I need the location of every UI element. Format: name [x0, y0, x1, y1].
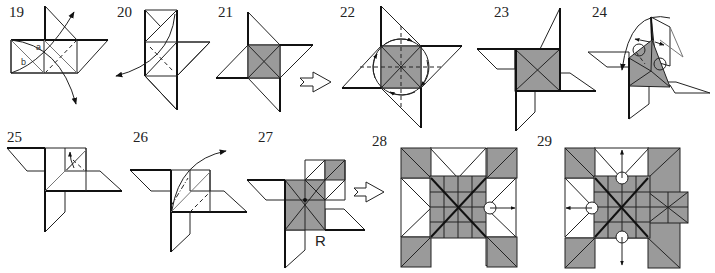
- diagram-canvas: a b: [0, 0, 715, 273]
- label-a: a: [36, 42, 41, 52]
- step-25-figure: [7, 148, 122, 232]
- step-22-figure: [342, 6, 462, 128]
- transition-arrow-21-22: [300, 72, 331, 92]
- step-26-figure: [130, 151, 247, 252]
- origami-diagram: 19 20 21 22 23 24 25 26 27 28 29: [0, 0, 715, 273]
- label-R: R: [315, 232, 326, 249]
- step-29-figure: [565, 148, 688, 268]
- step-19-figure: a b: [11, 6, 108, 104]
- step-24-figure: [588, 17, 710, 119]
- step-21-figure: [216, 12, 313, 112]
- step-20-figure: [116, 10, 210, 110]
- step-28-figure: [401, 148, 517, 267]
- step-27-figure: R: [247, 160, 365, 268]
- transition-arrow-27-28: [354, 182, 384, 202]
- step-23-figure: [477, 8, 596, 131]
- label-b: b: [21, 57, 26, 67]
